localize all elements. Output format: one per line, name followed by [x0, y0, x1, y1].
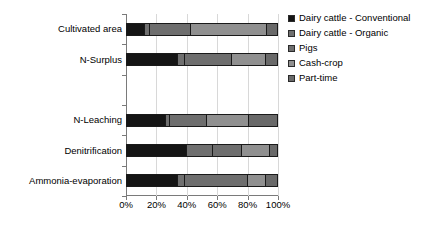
bar-segment: [126, 174, 178, 187]
gridline: [187, 14, 188, 196]
bar-segment: [187, 144, 213, 157]
bar-segment: [150, 23, 191, 36]
bar-5: [126, 174, 278, 187]
y-axis-tick: [122, 135, 126, 136]
bar-segment: [126, 144, 187, 157]
bar-segment: [178, 53, 186, 66]
gridline: [217, 14, 218, 196]
y-axis-tick: [122, 44, 126, 45]
category-axis-labels: Cultivated areaN-SurplusN-LeachingDenitr…: [0, 0, 122, 229]
legend-item: Pigs: [288, 41, 433, 55]
bar-segment: [185, 53, 232, 66]
x-tick-label: 0%: [119, 199, 133, 210]
y-axis-tick: [122, 166, 126, 167]
bar-segment: [249, 114, 278, 127]
bar-3: [126, 114, 278, 127]
bar-segment: [270, 144, 278, 157]
legend-swatch-icon: [288, 30, 295, 37]
x-tick-label: 100%: [266, 199, 290, 210]
legend-swatch-icon: [288, 15, 295, 22]
legend-label: Dairy cattle - Organic: [299, 28, 388, 38]
legend-item: Cash-crop: [288, 56, 433, 70]
category-label: N-Leaching: [0, 115, 122, 125]
x-tick-label: 80%: [238, 199, 257, 210]
legend-label: Dairy cattle - Conventional: [299, 13, 410, 23]
legend-item: Dairy cattle - Conventional: [288, 11, 433, 25]
plot-area: [126, 14, 278, 196]
x-tick-label: 40%: [177, 199, 196, 210]
bar-segment: [126, 23, 145, 36]
bar-4: [126, 144, 278, 157]
chart-legend: Dairy cattle - ConventionalDairy cattle …: [288, 11, 433, 86]
gridline: [278, 14, 279, 196]
y-axis-tick: [122, 14, 126, 15]
legend-swatch-icon: [288, 60, 295, 67]
x-axis-tick-labels: 0%20%40%60%80%100%: [126, 199, 278, 213]
stacked-bar-chart: Cultivated areaN-SurplusN-LeachingDenitr…: [0, 0, 435, 229]
y-axis-line: [126, 14, 127, 196]
legend-swatch-icon: [288, 45, 295, 52]
bar-segment: [248, 174, 266, 187]
category-label: Denitrification: [0, 146, 122, 156]
bar-segment: [266, 53, 278, 66]
bar-segment: [170, 114, 206, 127]
bar-segment: [213, 144, 242, 157]
legend-swatch-icon: [288, 75, 295, 82]
legend-label: Pigs: [299, 43, 317, 53]
category-label: N-Surplus: [0, 55, 122, 65]
category-label: Ammonia-evaporation: [0, 176, 122, 186]
y-axis-tick: [122, 196, 126, 197]
y-axis-tick: [122, 105, 126, 106]
gridline: [248, 14, 249, 196]
bar-segment: [207, 114, 250, 127]
x-tick-label: 60%: [208, 199, 227, 210]
bar-segment: [185, 174, 247, 187]
x-axis-line: [126, 195, 278, 196]
bar-segment: [126, 114, 166, 127]
bar-segment: [232, 53, 265, 66]
x-tick-label: 20%: [147, 199, 166, 210]
bar-1: [126, 23, 278, 36]
bar-2: [126, 53, 278, 66]
legend-label: Part-time: [299, 73, 338, 83]
bar-segment: [267, 23, 278, 36]
bar-segment: [266, 174, 278, 187]
bar-segment: [178, 174, 186, 187]
y-axis-tick: [122, 75, 126, 76]
gridline: [156, 14, 157, 196]
legend-item: Part-time: [288, 71, 433, 85]
legend-label: Cash-crop: [299, 58, 343, 68]
bar-segment: [242, 144, 271, 157]
legend-item: Dairy cattle - Organic: [288, 26, 433, 40]
category-label: Cultivated area: [0, 24, 122, 34]
bar-segment: [126, 53, 178, 66]
bar-segment: [191, 23, 267, 36]
